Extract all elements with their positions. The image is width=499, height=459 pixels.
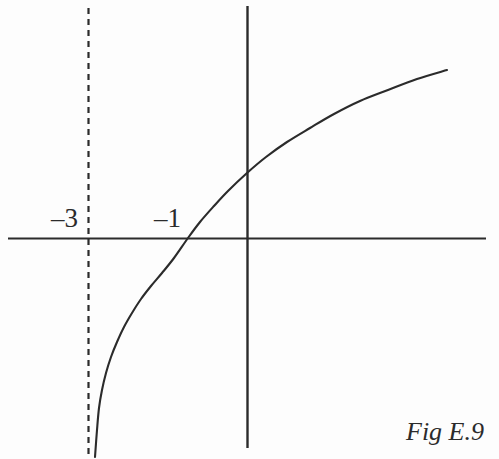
x-tick-label-negative-one: –1 bbox=[154, 205, 181, 232]
log-curve bbox=[95, 70, 447, 457]
figure-container: –3 –1 Fig E.9 bbox=[0, 0, 499, 459]
figure-caption: Fig E.9 bbox=[406, 419, 484, 445]
x-tick-label-negative-three: –3 bbox=[51, 205, 78, 232]
